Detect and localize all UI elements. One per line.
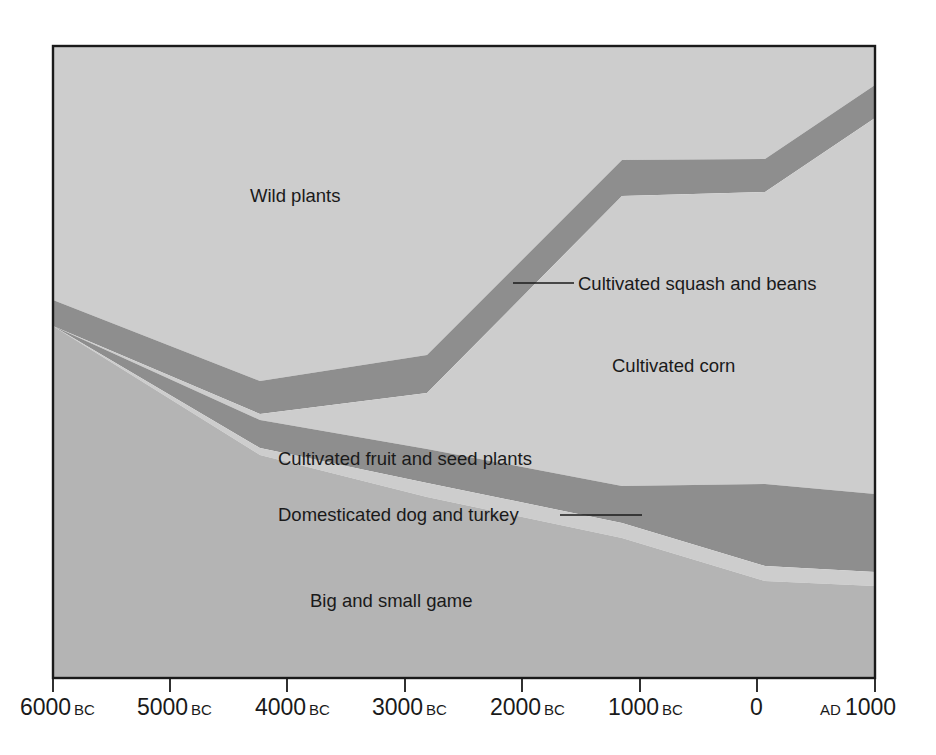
- x-axis-ticks: [53, 678, 875, 692]
- figure-container: Wild plants Cultivated squash and beans …: [0, 0, 936, 755]
- band-label-wild-plants: Wild plants: [250, 185, 340, 206]
- x-tick-label-3000bc-number: 3000: [372, 694, 423, 720]
- x-tick-label-3000bc-era: BC: [426, 701, 447, 718]
- x-tick-label-1000bc-number: 1000: [608, 694, 659, 720]
- band-label-cultivated-fruit-and-seed-plants: Cultivated fruit and seed plants: [278, 448, 532, 469]
- x-tick-label-2000bc-era: BC: [544, 701, 565, 718]
- band-label-big-and-small-game: Big and small game: [310, 590, 472, 611]
- band-label-cultivated-squash-and-beans: Cultivated squash and beans: [578, 273, 817, 294]
- x-tick-label-ad1000-number: 1000: [845, 694, 896, 720]
- x-tick-label-1000bc-era: BC: [662, 701, 683, 718]
- x-axis-tick-labels: 6000 BC 5000 BC 4000 BC 3000 BC 2000 BC …: [20, 694, 896, 720]
- x-tick-label-6000bc-era: BC: [74, 701, 95, 718]
- x-tick-label-4000bc-era: BC: [309, 701, 330, 718]
- x-tick-label-2000bc-number: 2000: [490, 694, 541, 720]
- x-tick-label-4000bc-number: 4000: [255, 694, 306, 720]
- band-label-cultivated-corn: Cultivated corn: [612, 355, 735, 376]
- x-tick-label-6000bc-number: 6000: [20, 694, 71, 720]
- x-tick-label-zero-number: 0: [750, 694, 763, 720]
- band-label-domesticated-dog-and-turkey: Domesticated dog and turkey: [278, 504, 519, 525]
- x-tick-label-5000bc-era: BC: [191, 701, 212, 718]
- area-chart: Wild plants Cultivated squash and beans …: [0, 0, 936, 755]
- x-tick-label-5000bc-number: 5000: [137, 694, 188, 720]
- x-tick-label-ad1000-era: AD: [820, 701, 841, 718]
